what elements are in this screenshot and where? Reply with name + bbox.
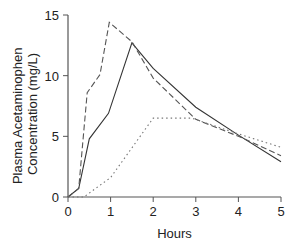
x-tick-label: 3 [192, 204, 199, 219]
x-tick-label: 5 [277, 204, 284, 219]
y-tick-label: 5 [52, 129, 59, 144]
y-tick-label: 15 [45, 8, 59, 23]
y-axis-label: Plasma Acetaminophen Concentration (mg/L… [10, 44, 40, 184]
x-tick-label: 4 [235, 204, 242, 219]
x-tick-label: 2 [150, 204, 157, 219]
y-tick-label: 0 [52, 190, 59, 205]
y-axis-label-line-1: Plasma Acetaminophen [10, 48, 25, 185]
x-axis-label: Hours [157, 226, 192, 241]
y-axis-label-line-2: Concentration (mg/L) [25, 53, 40, 175]
series-line-dashed [68, 22, 281, 197]
line-chart: 012345051015 Hours Plasma Acetaminophen … [0, 0, 295, 249]
y-tick-label: 10 [45, 69, 59, 84]
x-tick-label: 1 [107, 204, 114, 219]
series-group [68, 22, 281, 197]
series-line-dotted [68, 118, 281, 197]
axes: 012345051015 [45, 8, 285, 219]
x-tick-label: 0 [64, 204, 71, 219]
series-line-solid [68, 43, 281, 197]
